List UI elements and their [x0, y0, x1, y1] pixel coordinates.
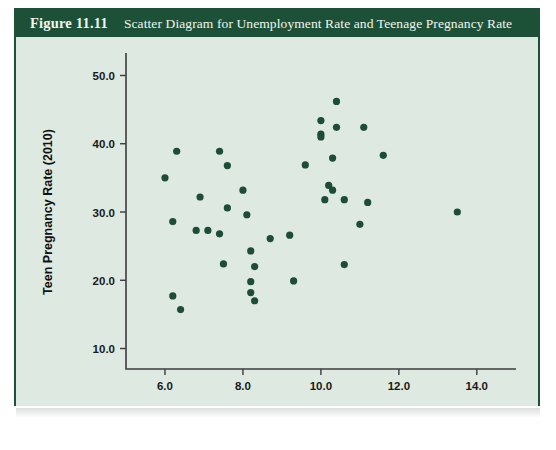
data-point [290, 277, 297, 284]
data-point [329, 187, 336, 194]
axis-labels-group: Unemployment Rate (2009)Teen Pregnancy R… [41, 129, 403, 406]
page-shadow [16, 408, 540, 418]
data-point [204, 227, 211, 234]
data-point [243, 211, 250, 218]
y-tick-label: 30.0 [93, 207, 115, 219]
y-tick-label: 10.0 [93, 343, 115, 355]
x-tick-label: 8.0 [235, 380, 251, 392]
data-point [356, 221, 363, 228]
data-point [333, 124, 340, 131]
x-tick-label: 12.0 [388, 380, 410, 392]
x-tick-label: 14.0 [466, 380, 488, 392]
data-point [317, 133, 324, 140]
data-point [341, 196, 348, 203]
x-tick-label: 6.0 [157, 380, 173, 392]
data-point [454, 208, 461, 215]
ticks-group: 6.08.010.012.014.010.020.030.040.050.0 [93, 70, 488, 392]
y-tick-label: 50.0 [93, 70, 115, 82]
data-point [286, 232, 293, 239]
data-point [251, 263, 258, 270]
data-point [333, 98, 340, 105]
y-tick-label: 20.0 [93, 275, 115, 287]
data-point [177, 306, 184, 313]
data-point [220, 260, 227, 267]
figure-number: Figure 11.11 [30, 15, 108, 32]
data-point [196, 193, 203, 200]
data-point [239, 187, 246, 194]
data-point [169, 218, 176, 225]
x-axis-title: Unemployment Rate (2009) [243, 404, 403, 406]
figure-header: Figure 11.11 Scatter Diagram for Unemplo… [16, 10, 538, 37]
data-point [216, 148, 223, 155]
data-point [161, 174, 168, 181]
scatter-plot-area: 6.08.010.012.014.010.020.030.040.050.0 U… [16, 37, 538, 406]
data-point [360, 124, 367, 131]
figure-caption: Scatter Diagram for Unemployment Rate an… [124, 16, 512, 32]
data-point [247, 278, 254, 285]
data-point [193, 227, 200, 234]
data-point [329, 154, 336, 161]
figure-card: Figure 11.11 Scatter Diagram for Unemplo… [14, 8, 540, 406]
data-point [173, 148, 180, 155]
y-axis-title: Teen Pregnancy Rate (2010) [41, 129, 55, 295]
y-tick-label: 40.0 [93, 138, 115, 150]
data-point [364, 199, 371, 206]
data-point [224, 204, 231, 211]
data-point [216, 230, 223, 237]
data-point [302, 161, 309, 168]
data-points-group [161, 98, 461, 313]
data-point [169, 292, 176, 299]
data-point [321, 196, 328, 203]
data-point [247, 289, 254, 296]
data-point [267, 235, 274, 242]
data-point [380, 152, 387, 159]
scatter-plot-svg: 6.08.010.012.014.010.020.030.040.050.0 U… [16, 37, 538, 406]
data-point [247, 247, 254, 254]
x-tick-label: 10.0 [310, 380, 332, 392]
data-point [224, 162, 231, 169]
data-point [341, 261, 348, 268]
data-point [251, 297, 258, 304]
data-point [317, 117, 324, 124]
